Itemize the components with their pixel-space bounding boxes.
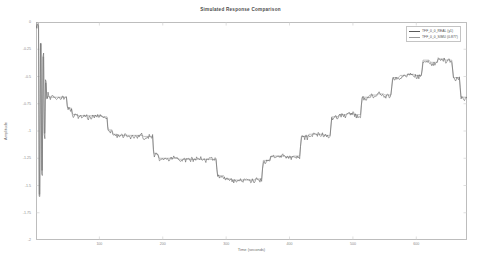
y-tick-label: -0.5	[25, 75, 31, 79]
legend-label: TFF_0_0_SIMU (0.877)	[422, 35, 458, 39]
y-tick-label: -1	[28, 129, 31, 133]
x-tick-label: 400	[287, 242, 293, 246]
x-axis-title: Time (seconds)	[36, 247, 467, 252]
y-tick-label: -1.75	[23, 211, 31, 215]
y-tick-label: -0.75	[23, 102, 31, 106]
legend-label: TFF_0_0_REAL (y1)	[422, 29, 453, 33]
x-tick-label: 300	[223, 242, 229, 246]
x-tick-label: 100	[96, 242, 102, 246]
legend-color-swatch	[409, 37, 420, 38]
y-axis-tick-labels: 0-0.25-0.5-0.75-1-1.25-1.5-1.75-2	[0, 22, 34, 240]
y-tick-label: -2	[28, 238, 31, 242]
legend-color-swatch	[409, 31, 420, 32]
x-tick-label: 600	[413, 242, 419, 246]
y-tick-label: -0.25	[23, 47, 31, 51]
y-tick-label: 0	[29, 20, 31, 24]
legend-item[interactable]: TFF_0_0_REAL (y1)	[409, 29, 458, 34]
plot-area	[36, 22, 467, 240]
figure-root: Simulated Response Comparison Amplitude …	[0, 0, 481, 261]
y-tick-label: -1.5	[25, 184, 31, 188]
legend[interactable]: TFF_0_0_REAL (y1)TFF_0_0_SIMU (0.877)	[406, 26, 461, 42]
series-line	[36, 24, 467, 197]
series-line	[36, 22, 467, 194]
chart-title: Simulated Response Comparison	[0, 7, 481, 12]
x-tick-label: 500	[350, 242, 356, 246]
x-tick-label: 200	[160, 242, 166, 246]
legend-item[interactable]: TFF_0_0_SIMU (0.877)	[409, 35, 458, 40]
plot-canvas	[36, 22, 467, 240]
y-tick-label: -1.25	[23, 156, 31, 160]
